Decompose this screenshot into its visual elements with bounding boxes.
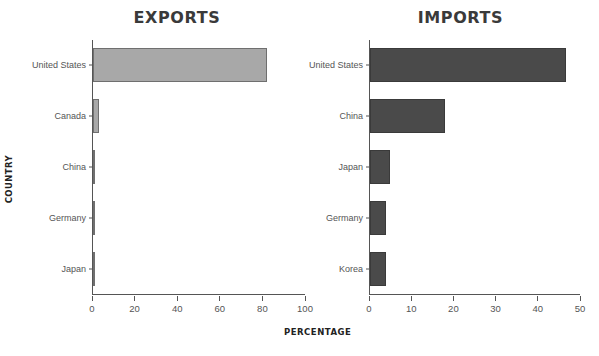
bar xyxy=(370,99,445,133)
x-tick-mark xyxy=(262,296,263,301)
category-label: United States xyxy=(32,60,86,70)
x-tick-label: 40 xyxy=(533,303,544,314)
bar xyxy=(370,252,386,286)
x-tick-mark xyxy=(369,296,370,301)
category-tick-mark xyxy=(366,217,370,218)
imports-chart-title: IMPORTS xyxy=(310,8,599,27)
bar xyxy=(93,48,267,82)
x-tick-mark xyxy=(219,296,220,301)
x-tick-label: 60 xyxy=(215,303,226,314)
x-tick-label: 30 xyxy=(490,303,501,314)
bar xyxy=(93,201,95,235)
exports-plot-area: United StatesCanadaChinaGermanyJapan 020… xyxy=(92,40,305,295)
bar-row: United States xyxy=(370,48,580,82)
bar-row: Germany xyxy=(370,201,580,235)
bar-row: Canada xyxy=(93,99,305,133)
category-label: China xyxy=(339,111,363,121)
x-tick-mark xyxy=(177,296,178,301)
x-tick-mark xyxy=(92,296,93,301)
x-tick-label: 0 xyxy=(366,303,371,314)
x-tick-mark xyxy=(305,296,306,301)
imports-chart-panel: IMPORTS United StatesChinaJapanGermanyKo… xyxy=(310,0,599,356)
category-label: Germany xyxy=(49,213,86,223)
category-tick-mark xyxy=(366,268,370,269)
category-tick-mark xyxy=(366,116,370,117)
bar-row: China xyxy=(93,150,305,184)
x-tick-label: 20 xyxy=(448,303,459,314)
exports-bar-group: United StatesCanadaChinaGermanyJapan xyxy=(93,40,305,294)
bar-row: United States xyxy=(93,48,305,82)
category-label: United States xyxy=(309,60,363,70)
imports-bar-group: United StatesChinaJapanGermanyKorea xyxy=(370,40,580,294)
bar-row: Germany xyxy=(93,201,305,235)
x-tick-mark xyxy=(580,296,581,301)
imports-plot-area: United StatesChinaJapanGermanyKorea 0102… xyxy=(369,40,580,295)
x-tick-mark xyxy=(537,296,538,301)
x-tick-label: 20 xyxy=(129,303,140,314)
category-tick-mark xyxy=(89,65,93,66)
exports-y-axis-title: COUNTRY xyxy=(4,155,14,203)
exports-chart-title: EXPORTS xyxy=(0,8,332,27)
x-tick-label: 10 xyxy=(406,303,417,314)
category-label: Japan xyxy=(338,162,363,172)
category-tick-mark xyxy=(89,116,93,117)
exports-x-axis-line xyxy=(92,294,305,295)
bar xyxy=(370,201,386,235)
category-tick-mark xyxy=(366,166,370,167)
category-label: China xyxy=(62,162,86,172)
bar-row: Japan xyxy=(370,150,580,184)
bar xyxy=(93,150,95,184)
x-tick-label: 80 xyxy=(257,303,268,314)
imports-x-axis-line xyxy=(369,294,580,295)
x-tick-mark xyxy=(453,296,454,301)
exports-chart-panel: EXPORTS COUNTRY United StatesCanadaChina… xyxy=(0,0,310,356)
bar xyxy=(93,252,95,286)
x-tick-label: 50 xyxy=(575,303,586,314)
x-tick-label: 40 xyxy=(172,303,183,314)
bar-row: Korea xyxy=(370,252,580,286)
bar xyxy=(370,150,390,184)
category-tick-mark xyxy=(366,65,370,66)
category-label: Japan xyxy=(61,264,86,274)
category-tick-mark xyxy=(89,268,93,269)
bar xyxy=(93,99,99,133)
x-tick-mark xyxy=(134,296,135,301)
category-tick-mark xyxy=(89,217,93,218)
category-label: Korea xyxy=(339,264,363,274)
category-tick-mark xyxy=(89,166,93,167)
x-tick-label: 0 xyxy=(89,303,94,314)
category-label: Germany xyxy=(326,213,363,223)
bar-row: China xyxy=(370,99,580,133)
bar xyxy=(370,48,566,82)
x-tick-mark xyxy=(411,296,412,301)
category-label: Canada xyxy=(54,111,86,121)
x-tick-mark xyxy=(495,296,496,301)
bar-row: Japan xyxy=(93,252,305,286)
